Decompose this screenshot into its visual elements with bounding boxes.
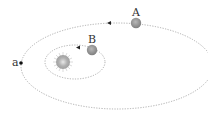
point-a: a xyxy=(12,56,23,69)
planet-b: B xyxy=(87,33,97,55)
orbit-diagram-svg: A B a xyxy=(0,0,208,119)
outer-direction-arrow-icon xyxy=(107,21,111,25)
point-a-label: a xyxy=(12,56,19,69)
sun-icon xyxy=(53,52,73,72)
planet-a: A xyxy=(131,6,141,28)
orbit-diagram: A B a xyxy=(0,0,208,119)
planet-a-label: A xyxy=(131,6,141,19)
planet-b-label: B xyxy=(88,33,96,46)
inner-direction-arrow-icon xyxy=(76,46,80,50)
outer-orbit xyxy=(21,23,208,109)
